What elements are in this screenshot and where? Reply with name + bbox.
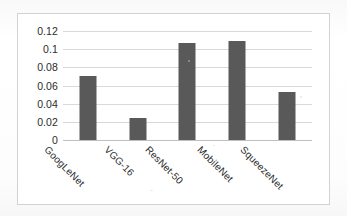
y-tick-label: 0.12 xyxy=(37,25,58,37)
plot-area: 00.020.040.060.080.10.12 xyxy=(63,31,312,140)
page-background: 00.020.040.060.080.10.12 GoogLeNetVGG-16… xyxy=(0,0,347,216)
y-tick-label: 0.06 xyxy=(37,80,58,92)
y-tick-label: 0 xyxy=(52,134,58,146)
x-label-slot: SqueezeNet xyxy=(262,142,312,204)
y-tick-label: 0.02 xyxy=(37,116,58,128)
x-axis-tick-labels: GoogLeNetVGG-16ResNet-50MobileNetSqueeze… xyxy=(63,142,312,204)
y-tick-label: 0.04 xyxy=(37,98,58,110)
y-tick-label: 0.08 xyxy=(37,61,58,73)
bar[interactable] xyxy=(129,118,146,140)
scan-speck xyxy=(300,96,302,98)
chart-frame: 00.020.040.060.080.10.12 GoogLeNetVGG-16… xyxy=(17,13,330,205)
x-tick-label: GoogLeNet xyxy=(42,144,87,189)
axis-baseline xyxy=(63,140,312,141)
bar-slot xyxy=(262,31,312,140)
bar-series xyxy=(63,31,312,140)
bar-slot xyxy=(63,31,113,140)
scan-speck xyxy=(213,145,215,146)
bar[interactable] xyxy=(279,92,296,140)
bar[interactable] xyxy=(179,43,196,140)
bar-slot xyxy=(113,31,163,140)
bar[interactable] xyxy=(79,76,96,140)
bar-slot xyxy=(163,31,213,140)
y-tick-label: 0.1 xyxy=(43,43,58,55)
bar-slot xyxy=(212,31,262,140)
bar[interactable] xyxy=(229,41,246,140)
scan-speck xyxy=(150,190,153,191)
scan-speck xyxy=(188,60,190,62)
